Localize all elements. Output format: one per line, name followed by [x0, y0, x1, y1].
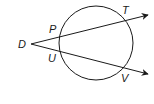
- label-d: D: [18, 38, 26, 50]
- label-p: P: [49, 23, 57, 35]
- label-v: V: [121, 72, 130, 84]
- secant-diagram: D P T U V: [0, 0, 154, 104]
- label-t: T: [122, 4, 130, 16]
- label-u: U: [48, 52, 56, 64]
- circle: [59, 6, 133, 80]
